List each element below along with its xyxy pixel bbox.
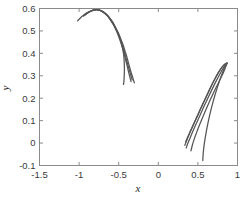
- x-tick-label: -1: [75, 169, 83, 180]
- y-axis-title: y: [0, 85, 11, 91]
- x-tick-label: -0.5: [111, 169, 127, 180]
- x-tick-label: 0: [156, 169, 161, 180]
- x-tick-label: 0.5: [191, 169, 204, 180]
- chart-figure: -1.5-1-0.500.51 -0.100.10.20.30.40.50.6 …: [0, 0, 248, 199]
- plot-axes-frame: [40, 9, 238, 166]
- y-tick-label: -0.1: [19, 160, 35, 171]
- y-tick-label: 0: [30, 137, 35, 148]
- y-tick-label: 0.4: [22, 48, 35, 59]
- x-tick-label: 1: [235, 169, 240, 180]
- y-tick-label: 0.6: [22, 3, 35, 14]
- y-tick-label: 0.5: [22, 25, 35, 36]
- x-axis-title: x: [135, 182, 141, 194]
- y-tick-label: 0.2: [22, 93, 35, 104]
- xy-line-plot: -1.5-1-0.500.51 -0.100.10.20.30.40.50.6 …: [0, 0, 248, 199]
- y-tick-label: 0.1: [22, 115, 35, 126]
- y-tick-label: 0.3: [22, 70, 35, 81]
